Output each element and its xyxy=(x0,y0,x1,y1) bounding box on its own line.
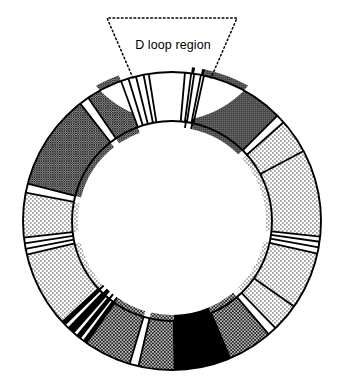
ring-segment-divider xyxy=(181,73,185,122)
ring-segment xyxy=(148,66,186,128)
ring-segment-divider xyxy=(149,74,157,122)
genome-ring-figure: D loop region xyxy=(0,0,345,389)
ring-segment-group xyxy=(17,66,327,376)
circular-genome-ring xyxy=(0,0,345,389)
d-loop-region-label: D loop region xyxy=(104,38,242,52)
ring-segment-divider xyxy=(174,321,175,370)
